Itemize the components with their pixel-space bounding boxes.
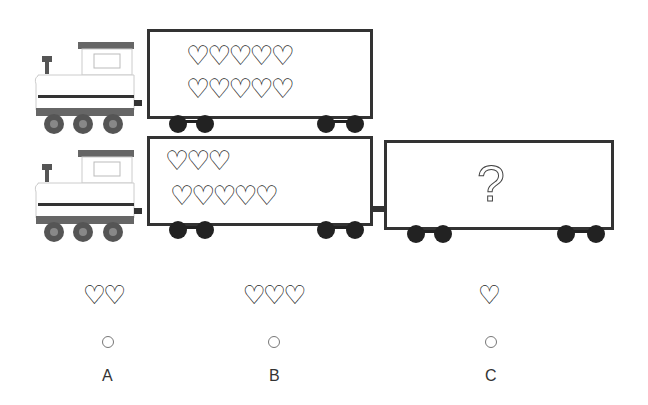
locomotive-icon (30, 146, 142, 242)
hearts-row-1: ♡♡♡♡♡ (186, 42, 292, 69)
wheels-icon (398, 224, 610, 246)
wheels-icon (160, 220, 370, 242)
locomotive-icon (30, 38, 142, 134)
option-a-label[interactable]: A (102, 367, 113, 385)
question-mark: ? (477, 155, 505, 213)
hearts-row-1: ♡♡♡ (165, 147, 229, 174)
option-b-radio[interactable] (268, 336, 280, 348)
option-c-hearts: ♡ (468, 280, 508, 310)
puzzle-stage: ♡♡♡♡♡ ♡♡♡♡♡ ♡♡♡ ♡♡♡♡♡ ? ♡♡ A (0, 0, 648, 405)
option-b-label[interactable]: B (269, 367, 280, 385)
option-b-hearts: ♡♡♡ (228, 280, 318, 310)
hearts-row-2: ♡♡♡♡♡ (186, 75, 292, 102)
train-car-1: ♡♡♡♡♡ ♡♡♡♡♡ (147, 29, 373, 119)
option-c-radio[interactable] (485, 336, 497, 348)
option-a-hearts: ♡♡ (68, 280, 138, 310)
train-car-2: ♡♡♡ ♡♡♡♡♡ (147, 136, 373, 226)
hearts-row-2: ♡♡♡♡♡ (170, 182, 276, 209)
wheels-icon (160, 114, 370, 136)
option-c-label[interactable]: C (485, 367, 497, 385)
mystery-car: ? (384, 140, 614, 230)
option-a-radio[interactable] (102, 336, 114, 348)
